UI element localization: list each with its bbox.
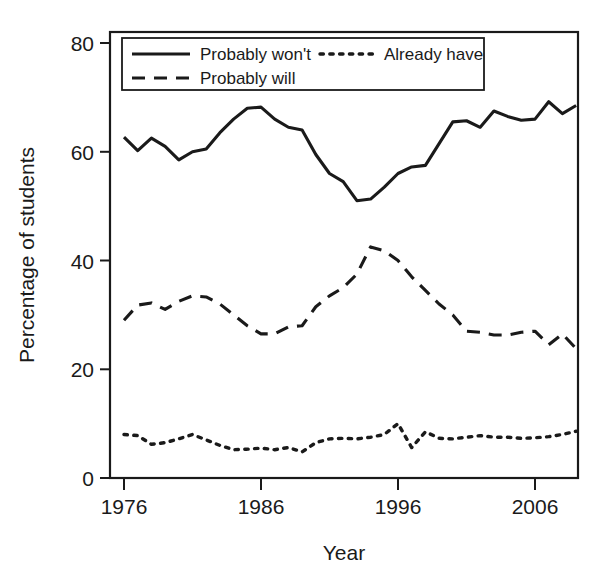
y-axis-ticks — [100, 43, 110, 478]
legend-label-probably-will: Probably will — [200, 69, 295, 88]
y-tick-label-20: 20 — [71, 358, 94, 381]
x-tick-label-1976: 1976 — [101, 495, 148, 518]
series-line-probably-will — [124, 247, 576, 349]
plot-frame — [110, 32, 578, 478]
x-axis-tick-labels: 1976 1986 1996 2006 — [101, 495, 559, 518]
chart-figure: 80 60 40 20 0 1976 1986 1996 2006 Year P… — [0, 0, 604, 586]
x-tick-label-2006: 2006 — [512, 495, 559, 518]
data-series-group — [124, 102, 576, 452]
y-tick-label-40: 40 — [71, 250, 94, 273]
series-line-probably-wont — [124, 102, 576, 201]
legend-label-probably-wont: Probably won't — [200, 45, 311, 64]
x-axis-ticks — [124, 478, 535, 490]
y-tick-label-60: 60 — [71, 141, 94, 164]
y-tick-label-80: 80 — [71, 32, 94, 55]
x-tick-label-1996: 1996 — [375, 495, 422, 518]
y-axis-tick-labels: 80 60 40 20 0 — [71, 32, 94, 490]
y-tick-label-0: 0 — [82, 467, 94, 490]
x-tick-label-1986: 1986 — [238, 495, 285, 518]
legend-label-already-have: Already have — [384, 45, 483, 64]
y-axis-title: Percentage of students — [15, 147, 38, 363]
line-chart-canvas: 80 60 40 20 0 1976 1986 1996 2006 Year P… — [0, 0, 604, 586]
x-axis-title: Year — [323, 541, 365, 564]
chart-legend: Probably won't Already have Probably wil… — [122, 38, 484, 90]
series-line-already-have — [124, 424, 576, 452]
